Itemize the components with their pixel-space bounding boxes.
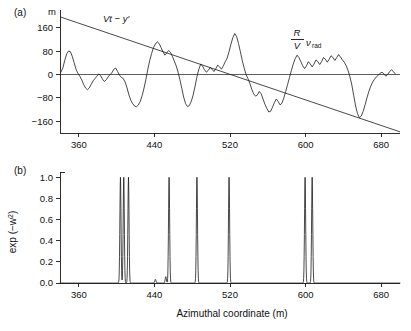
radial-velocity-trace <box>61 34 395 118</box>
figure-container: (a) m 160800−80−160360440520600680 Vt − … <box>0 0 411 331</box>
y-tick-label: 0.4 <box>40 235 53 246</box>
x-tick-label: 680 <box>373 289 389 300</box>
panel-b: (b) 0.00.20.40.60.81.0360440520600680 ex… <box>7 165 401 319</box>
y-tick-label: 160 <box>37 22 53 33</box>
x-tick-label: 440 <box>147 289 163 300</box>
panel-a-label: (a) <box>14 7 26 18</box>
annotation-vt-minus-y: Vt − y′ <box>103 13 131 24</box>
panel-b-tick-labels: 0.00.20.40.60.81.0360440520600680 <box>40 172 389 300</box>
x-tick-label: 520 <box>222 139 238 150</box>
panel-b-ylabel-group: exp (−w2) <box>7 211 19 254</box>
y-tick-label: 0.2 <box>40 256 53 267</box>
x-tick-label: 360 <box>71 289 87 300</box>
panel-a-unit-label: m <box>48 6 56 17</box>
x-tick-label: 600 <box>298 139 314 150</box>
annotation-nu-symbol: ν <box>306 37 311 48</box>
y-tick-label: 0.6 <box>40 214 53 225</box>
two-panel-plot: (a) m 160800−80−160360440520600680 Vt − … <box>0 0 411 331</box>
y-tick-label: 0.0 <box>40 277 53 288</box>
panel-a: (a) m 160800−80−160360440520600680 Vt − … <box>14 6 400 150</box>
x-tick-label: 600 <box>298 289 314 300</box>
y-tick-label: 0.8 <box>40 193 53 204</box>
y-tick-label: 1.0 <box>40 172 53 183</box>
panel-a-tick-labels: 160800−80−160360440520600680 <box>32 22 389 150</box>
panel-a-data-traces <box>60 17 400 132</box>
panel-b-ylabel: exp (−w2) <box>7 211 19 254</box>
x-axis-title: Azimuthal coordinate (m) <box>176 308 287 319</box>
y-tick-label: −80 <box>37 92 53 103</box>
y-tick-label: 80 <box>42 46 53 57</box>
annotation-denominator-v: V <box>294 40 302 51</box>
panel-b-label: (b) <box>14 165 26 176</box>
annotation-numerator-r: R <box>294 27 301 38</box>
annotation-rad-subscript: rad <box>312 42 322 49</box>
x-tick-label: 360 <box>71 139 87 150</box>
y-tick-label: −160 <box>32 116 53 127</box>
x-tick-label: 520 <box>222 289 238 300</box>
x-tick-label: 440 <box>147 139 163 150</box>
y-tick-label: 0 <box>48 69 53 80</box>
gaussian-spikes-trace <box>60 177 400 283</box>
x-tick-label: 680 <box>373 139 389 150</box>
panel-b-data-traces <box>60 177 400 283</box>
annotation-r-over-v-nu-rad: R V ν rad <box>291 27 322 51</box>
